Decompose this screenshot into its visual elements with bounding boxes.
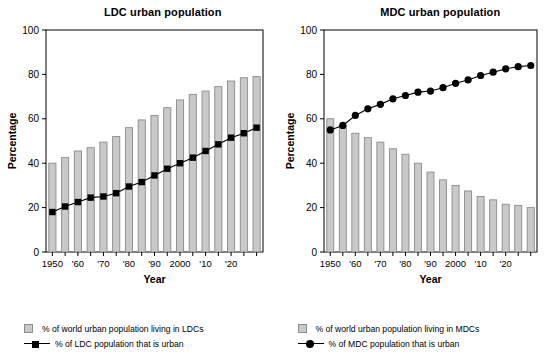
- svg-text:'20: '20: [225, 258, 237, 269]
- ldc-plot-svg: 020406080100Percentage1950'60'70'80'9020…: [0, 0, 273, 300]
- legend-label: % of MDC population that is urban: [329, 339, 460, 349]
- svg-text:'80: '80: [399, 258, 411, 269]
- svg-text:40: 40: [28, 158, 40, 169]
- legend-item-bar: % of world urban population living in LD…: [0, 321, 274, 336]
- legend-label: % of LDC population that is urban: [55, 339, 184, 349]
- svg-text:Year: Year: [419, 273, 441, 285]
- chart-panel-ldc: LDC urban population 020406080100Percent…: [0, 0, 274, 353]
- svg-text:Percentage: Percentage: [284, 113, 296, 170]
- legend-line-square-icon: [24, 339, 52, 348]
- svg-text:Year: Year: [143, 273, 165, 285]
- legend-line-circle-icon: [298, 339, 326, 348]
- svg-text:'60: '60: [72, 258, 84, 269]
- svg-text:'60: '60: [349, 258, 361, 269]
- svg-text:1950: 1950: [42, 258, 63, 269]
- svg-text:40: 40: [305, 158, 317, 169]
- mdc-plot-svg: 020406080100Percentage1950'60'70'80'9020…: [274, 0, 547, 300]
- svg-text:20: 20: [28, 202, 40, 213]
- svg-text:100: 100: [300, 25, 317, 36]
- svg-text:0: 0: [33, 247, 39, 258]
- svg-text:'70: '70: [374, 258, 386, 269]
- svg-text:100: 100: [22, 25, 39, 36]
- svg-text:20: 20: [305, 202, 317, 213]
- svg-text:80: 80: [28, 69, 40, 80]
- svg-text:60: 60: [28, 113, 40, 124]
- svg-text:80: 80: [305, 69, 317, 80]
- legend-item-bar: % of world urban population living in MD…: [274, 321, 547, 336]
- svg-text:'90: '90: [148, 258, 160, 269]
- legend-item-line: % of LDC population that is urban: [0, 336, 274, 351]
- twin-charts-figure: LDC urban population 020406080100Percent…: [0, 0, 547, 353]
- legend-swatch-icon: [298, 324, 307, 333]
- chart-panel-mdc: MDC urban population 020406080100Percent…: [274, 0, 547, 353]
- svg-text:'10: '10: [199, 258, 211, 269]
- svg-text:2000: 2000: [169, 258, 190, 269]
- svg-text:2000: 2000: [444, 258, 465, 269]
- legend-label: % of world urban population living in LD…: [42, 324, 203, 334]
- svg-text:1950: 1950: [319, 258, 340, 269]
- svg-text:'20: '20: [499, 258, 511, 269]
- svg-text:0: 0: [311, 247, 317, 258]
- svg-text:'10: '10: [474, 258, 486, 269]
- svg-text:Percentage: Percentage: [6, 113, 18, 170]
- legend-label: % of world urban population living in MD…: [316, 324, 480, 334]
- legend-item-line: % of MDC population that is urban: [274, 336, 547, 351]
- svg-text:'70: '70: [97, 258, 109, 269]
- svg-text:60: 60: [305, 113, 317, 124]
- svg-text:'80: '80: [123, 258, 135, 269]
- legend-mdc: % of world urban population living in MD…: [274, 321, 547, 351]
- svg-text:'90: '90: [424, 258, 436, 269]
- legend-swatch-icon: [24, 324, 33, 333]
- legend-ldc: % of world urban population living in LD…: [0, 321, 274, 351]
